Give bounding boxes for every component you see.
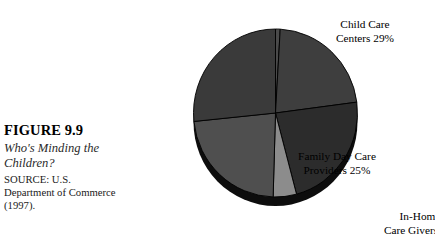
pie-label-family-day-care-providers: Family Day Care Providers 25% [282, 150, 392, 178]
figure-number: FIGURE 9.9 [4, 122, 132, 139]
figure-caption-block: FIGURE 9.9 Who's Minding the Children? S… [4, 122, 132, 212]
figure-source: SOURCE: U.S. Department of Commerce (199… [4, 173, 132, 212]
pie-label-other: Other 1% [430, 8, 435, 22]
pie-chart-area: Child Care Centers 29% Other 1% Parents … [160, 0, 435, 244]
pie-label-child-care-centers: Child Care Centers 29% [317, 18, 413, 46]
figure-title: Who's Minding the Children? [4, 141, 132, 171]
source-line-2: Department of Commerce [4, 186, 116, 198]
source-line-1: SOURCE: U.S. [4, 173, 71, 185]
pie-slice-child-care-centers [194, 29, 276, 121]
pie-slice-family-day-care-providers [194, 113, 276, 197]
source-line-3: (1997). [4, 199, 35, 211]
pie-label-in-home-care-givers: In-Home Care Givers 5% [367, 210, 435, 238]
figure-container: FIGURE 9.9 Who's Minding the Children? S… [0, 0, 435, 244]
